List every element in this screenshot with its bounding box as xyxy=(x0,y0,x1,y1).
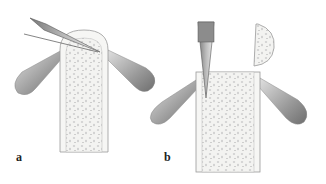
retractor-right-a xyxy=(106,50,155,92)
panel-a-drawing xyxy=(15,18,155,152)
surgical-illustration xyxy=(0,0,326,184)
panel-label-a: a xyxy=(16,150,22,165)
panel-label-b: b xyxy=(164,150,171,165)
retractor-right-b xyxy=(258,78,307,124)
bone-fragment-b xyxy=(254,24,274,66)
panel-b-drawing xyxy=(150,22,307,172)
retractor-left-a xyxy=(15,50,64,95)
retractor-left-b xyxy=(150,80,198,124)
